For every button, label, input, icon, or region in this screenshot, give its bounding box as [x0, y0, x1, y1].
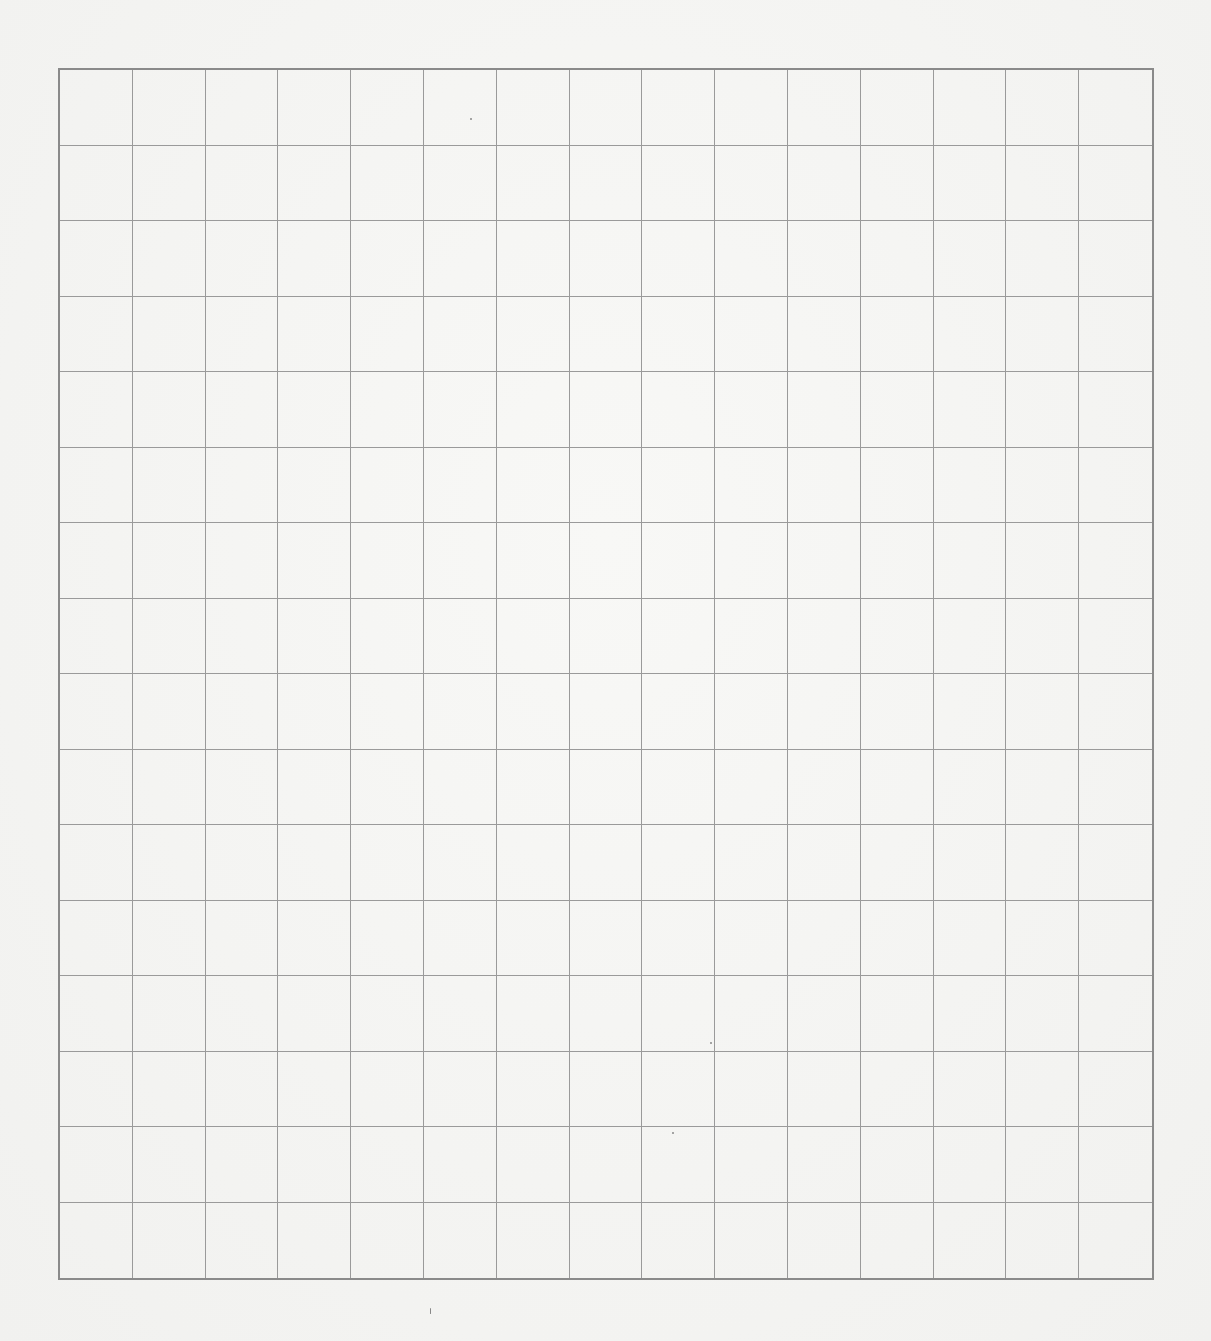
grid-cell: [642, 1052, 715, 1128]
grid-cell: [642, 297, 715, 373]
grid-cell: [570, 674, 643, 750]
grid-cell: [715, 372, 788, 448]
grid-cell: [1079, 146, 1152, 222]
grid-cell: [861, 674, 934, 750]
grid-cell: [861, 523, 934, 599]
grid-cell: [424, 448, 497, 524]
grid-cell: [1006, 674, 1079, 750]
grid-cell: [60, 297, 133, 373]
grid-cell: [351, 146, 424, 222]
grid-cell: [278, 1127, 351, 1203]
grid-cell: [934, 297, 1007, 373]
grid-cell: [424, 1203, 497, 1279]
grid-cell: [424, 674, 497, 750]
grid-cell: [424, 599, 497, 675]
grid-cell: [934, 825, 1007, 901]
grid-cell: [60, 70, 133, 146]
grid-cell: [497, 599, 570, 675]
grid-cell: [351, 1052, 424, 1128]
grid-cell: [60, 146, 133, 222]
grid-cell: [424, 1127, 497, 1203]
grid-cell: [570, 825, 643, 901]
grid-cell: [133, 674, 206, 750]
grid-cell: [206, 523, 279, 599]
grid-cell: [1006, 1203, 1079, 1279]
grid-cell: [60, 1127, 133, 1203]
grid-cell: [934, 448, 1007, 524]
grid-cell: [715, 297, 788, 373]
grid-cell: [133, 297, 206, 373]
grid-cell: [278, 750, 351, 826]
grid-cell: [642, 674, 715, 750]
grid-cell: [642, 372, 715, 448]
grid-cell: [133, 523, 206, 599]
grid-cell: [1006, 599, 1079, 675]
grid-cell: [1079, 901, 1152, 977]
grid-cell: [497, 1127, 570, 1203]
grid-cell: [861, 448, 934, 524]
grid-cell: [60, 372, 133, 448]
paper-speck: [430, 1308, 431, 1314]
grid-cell: [570, 1203, 643, 1279]
grid-cell: [60, 1203, 133, 1279]
grid-cell: [1006, 825, 1079, 901]
grid-cell: [497, 1052, 570, 1128]
grid-cell: [861, 825, 934, 901]
grid-paper-sheet: [0, 0, 1211, 1341]
grid-cell: [642, 221, 715, 297]
grid-cell: [278, 1203, 351, 1279]
paper-speck: [470, 118, 472, 120]
grid-cell: [133, 1127, 206, 1203]
grid-cell: [133, 70, 206, 146]
grid-cell: [642, 976, 715, 1052]
grid-cell: [1079, 825, 1152, 901]
grid-cell: [788, 1203, 861, 1279]
grid-cell: [570, 523, 643, 599]
grid-cell: [715, 976, 788, 1052]
grid-cell: [1079, 1203, 1152, 1279]
grid-cell: [642, 1203, 715, 1279]
grid-cell: [861, 372, 934, 448]
grid-cell: [206, 297, 279, 373]
grid-cell: [1006, 372, 1079, 448]
grid-cell: [424, 1052, 497, 1128]
grid-cell: [133, 901, 206, 977]
grid-cell: [642, 1127, 715, 1203]
grid-cell: [1006, 750, 1079, 826]
grid-cell: [715, 1127, 788, 1203]
grid-cell: [934, 901, 1007, 977]
grid-cell: [278, 448, 351, 524]
grid-cell: [351, 523, 424, 599]
grid-cell: [497, 674, 570, 750]
grid-cell: [1079, 976, 1152, 1052]
grid-cell: [206, 901, 279, 977]
grid-cell: [788, 1052, 861, 1128]
grid-cell: [351, 674, 424, 750]
grid-cell: [861, 976, 934, 1052]
grid-cell: [934, 523, 1007, 599]
grid-cell: [497, 448, 570, 524]
grid-cell: [206, 825, 279, 901]
grid-cell: [715, 1203, 788, 1279]
grid-cell: [133, 1052, 206, 1128]
grid-cell: [133, 825, 206, 901]
grid-cell: [788, 674, 861, 750]
grid-cell: [1079, 297, 1152, 373]
grid-cell: [861, 599, 934, 675]
grid-cell: [1006, 146, 1079, 222]
grid-cell: [788, 372, 861, 448]
grid-cell: [278, 372, 351, 448]
grid-cell: [351, 599, 424, 675]
grid-cell: [206, 976, 279, 1052]
grid-cell: [642, 70, 715, 146]
grid-cell: [206, 674, 279, 750]
grid-cell: [424, 976, 497, 1052]
grid-cell: [497, 825, 570, 901]
grid-cell: [570, 70, 643, 146]
grid-cell: [133, 146, 206, 222]
grid-cell: [133, 599, 206, 675]
grid-cell: [206, 146, 279, 222]
paper-speck: [672, 1132, 674, 1134]
grid-cell: [60, 221, 133, 297]
grid-cell: [497, 901, 570, 977]
